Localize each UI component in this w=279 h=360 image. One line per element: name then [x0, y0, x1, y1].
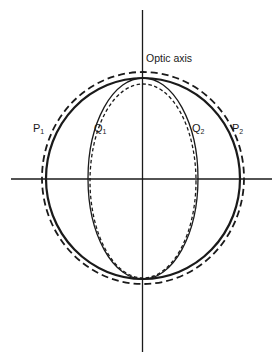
- optic-axis-diagram: Optic axis P1 Q1 Q2 P2: [0, 0, 279, 360]
- label-P1: P1: [33, 122, 44, 135]
- optic-axis-label: Optic axis: [146, 52, 192, 64]
- label-Q1: Q1: [94, 122, 107, 135]
- diagram-canvas: Optic axis P1 Q1 Q2 P2: [0, 0, 279, 360]
- label-Q2: Q2: [192, 122, 205, 135]
- label-P2: P2: [232, 122, 243, 135]
